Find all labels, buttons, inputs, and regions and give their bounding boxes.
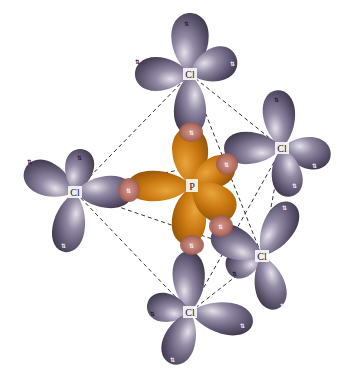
electron-pair: ⇅ <box>150 310 155 317</box>
phosphorus-label: P <box>189 181 195 192</box>
svg-text:⇅: ⇅ <box>218 223 223 230</box>
electron-pair: ⇅ <box>77 154 82 161</box>
electron-pair: ⇅ <box>170 356 175 363</box>
svg-text:⇅: ⇅ <box>189 129 194 136</box>
electron-pair: ⇅ <box>135 58 140 65</box>
pcl5-orbital-diagram: ⇅ ⇅ ⇅ ⇅ ⇅ ⇅ ⇅ ⇅ ⇅ ⇅ ⇅ ⇅ ⇅ ⇅ <box>0 0 359 387</box>
electron-pair: ⇅ <box>274 96 279 103</box>
svg-text:⇅: ⇅ <box>189 242 194 249</box>
svg-text:⇅: ⇅ <box>224 161 229 168</box>
electron-pair: ⇅ <box>280 302 285 309</box>
chlorine-label: Cl <box>70 187 80 198</box>
electron-pair: ⇅ <box>282 204 287 211</box>
electron-pair: ⇅ <box>292 182 297 189</box>
electron-pair: ⇅ <box>232 270 237 277</box>
electron-pair: ⇅ <box>312 162 317 169</box>
electron-pair: ⇅ <box>240 322 245 329</box>
electron-pair: ⇅ <box>230 60 235 67</box>
electron-pair: ⇅ <box>61 242 66 249</box>
svg-text:⇅: ⇅ <box>126 187 131 194</box>
chlorine-label: Cl <box>185 69 195 80</box>
electron-pair: ⇅ <box>27 158 32 165</box>
electron-pair: ⇅ <box>184 20 189 27</box>
chlorine-left: ⇅ ⇅ ⇅ <box>18 147 133 255</box>
chlorine-label: Cl <box>257 251 267 262</box>
chlorine-label: Cl <box>277 143 287 154</box>
chlorine-label: Cl <box>185 307 195 318</box>
